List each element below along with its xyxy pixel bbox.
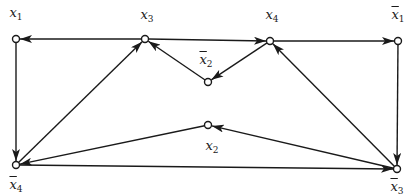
edge-nx4-to-nx3 [19,165,393,169]
node-label-x3: x3 [140,8,153,24]
edge-x4-to-nx2 [211,43,267,80]
node-label-nx1: x1 [391,8,404,24]
variable-subscript: 1 [399,14,405,24]
edge-nx1-to-nx3 [397,44,398,165]
node-label-x4: x4 [265,8,278,24]
node-x2 [205,122,212,129]
edge-nx3-to-x4 [273,44,395,167]
variable-subscript: 1 [17,12,23,22]
variable-subscript: 2 [213,145,219,155]
node-label-nx3: x3 [390,180,403,195]
edge-nx3-to-x2 [212,126,394,168]
node-x1 [13,36,20,43]
implication-graph: x1x3x4x1x2x2x4x3 [0,0,415,195]
node-label-x2: x2 [205,139,218,155]
edge-nx2-to-x3 [148,41,205,80]
edge-x3-to-x4 [148,39,266,41]
variable-subscript: 3 [148,14,154,24]
node-x3 [142,36,149,43]
edge-x2-to-nx4 [20,126,205,164]
node-label-nx4: x4 [9,178,22,194]
edge-nx4-to-x3 [19,42,143,163]
node-nx4 [13,162,20,169]
variable-subscript: 2 [207,59,213,69]
node-x4 [267,38,274,45]
node-label-x1: x1 [9,6,22,22]
variable-subscript: 3 [398,186,404,195]
variable-subscript: 4 [273,14,279,24]
node-label-nx2: x2 [199,53,212,69]
variable-subscript: 4 [17,184,23,194]
node-nx3 [394,166,401,173]
node-nx2 [205,79,212,86]
node-nx1 [395,38,402,45]
graph-edges-layer [0,0,415,195]
